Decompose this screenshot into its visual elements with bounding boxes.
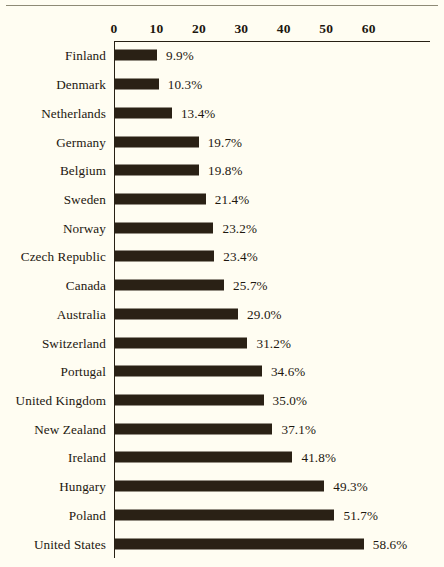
x-axis-tick-50: 50	[319, 21, 333, 37]
chart-row: New Zealand37.1%	[0, 414, 444, 443]
bar-value-label: 49.3%	[333, 479, 368, 494]
bar	[115, 452, 292, 463]
category-label: United Kingdom	[0, 393, 106, 408]
bar-chart-figure: 0102030405060 Finland9.9%Denmark10.3%Net…	[0, 0, 444, 567]
chart-row: Australia29.0%	[0, 300, 444, 329]
bar-value-label: 23.2%	[222, 220, 257, 235]
bar	[115, 481, 324, 492]
page-top-rule	[6, 5, 438, 6]
bar	[115, 509, 334, 520]
chart-row: Hungary49.3%	[0, 472, 444, 501]
bar-value-label: 19.7%	[208, 134, 243, 149]
category-label: Sweden	[0, 191, 106, 206]
chart-row: Belgium19.8%	[0, 156, 444, 185]
bar-value-label: 58.6%	[373, 536, 408, 551]
bar	[115, 50, 157, 61]
chart-row: Portugal34.6%	[0, 357, 444, 386]
x-axis-tick-0: 0	[111, 21, 118, 37]
category-label: Finland	[0, 48, 106, 63]
chart-row: United Kingdom35.0%	[0, 386, 444, 415]
category-label: New Zealand	[0, 421, 106, 436]
category-label: Denmark	[0, 77, 106, 92]
x-axis-tick-20: 20	[192, 21, 206, 37]
category-label: Czech Republic	[0, 249, 106, 264]
x-axis-tick-60: 60	[362, 21, 376, 37]
bar	[115, 107, 172, 118]
bar	[115, 395, 264, 406]
chart-row: Sweden21.4%	[0, 185, 444, 214]
bar-value-label: 37.1%	[281, 421, 316, 436]
chart-row: Ireland41.8%	[0, 443, 444, 472]
category-label: Poland	[0, 507, 106, 522]
x-axis-tick-30: 30	[234, 21, 248, 37]
x-axis-tick-labels: 0102030405060	[0, 21, 444, 38]
bar	[115, 280, 224, 291]
chart-row: Czech Republic23.4%	[0, 242, 444, 271]
category-label: Netherlands	[0, 105, 106, 120]
bar	[115, 251, 214, 262]
bar	[115, 193, 206, 204]
bar	[115, 165, 199, 176]
chart-row: Switzerland31.2%	[0, 328, 444, 357]
category-label: Canada	[0, 278, 106, 293]
category-label: Switzerland	[0, 335, 106, 350]
bar-value-label: 35.0%	[273, 393, 308, 408]
bar	[115, 337, 247, 348]
category-label: Hungary	[0, 479, 106, 494]
category-label: Germany	[0, 134, 106, 149]
bar	[115, 366, 262, 377]
bar-value-label: 10.3%	[168, 77, 203, 92]
chart-row: Norway23.2%	[0, 213, 444, 242]
chart-row: Denmark10.3%	[0, 70, 444, 99]
category-label: Norway	[0, 220, 106, 235]
category-label: Portugal	[0, 364, 106, 379]
category-label: United States	[0, 536, 106, 551]
x-axis-tick-40: 40	[277, 21, 291, 37]
bar-value-label: 9.9%	[166, 48, 194, 63]
chart-row: Germany19.7%	[0, 127, 444, 156]
category-label: Ireland	[0, 450, 106, 465]
category-label: Belgium	[0, 163, 106, 178]
bar-value-label: 51.7%	[343, 507, 378, 522]
bar	[115, 222, 213, 233]
chart-row: Netherlands13.4%	[0, 98, 444, 127]
bar	[115, 136, 199, 147]
chart-row: Canada25.7%	[0, 271, 444, 300]
bar-value-label: 21.4%	[215, 191, 250, 206]
bar-value-label: 25.7%	[233, 278, 268, 293]
bar-value-label: 41.8%	[301, 450, 336, 465]
chart-row: Finland9.9%	[0, 41, 444, 70]
chart-row: Poland51.7%	[0, 501, 444, 530]
bar-value-label: 34.6%	[271, 364, 306, 379]
bar-value-label: 13.4%	[181, 105, 216, 120]
bar	[115, 308, 238, 319]
chart-plot-area: Finland9.9%Denmark10.3%Netherlands13.4%G…	[0, 41, 444, 558]
bar	[115, 538, 364, 549]
bar	[115, 423, 272, 434]
bar-value-label: 23.4%	[223, 249, 258, 264]
bar	[115, 79, 159, 90]
x-axis-tick-10: 10	[149, 21, 163, 37]
category-label: Australia	[0, 306, 106, 321]
chart-row: United States58.6%	[0, 529, 444, 558]
bar-value-label: 31.2%	[256, 335, 291, 350]
bar-value-label: 29.0%	[247, 306, 282, 321]
bar-value-label: 19.8%	[208, 163, 243, 178]
